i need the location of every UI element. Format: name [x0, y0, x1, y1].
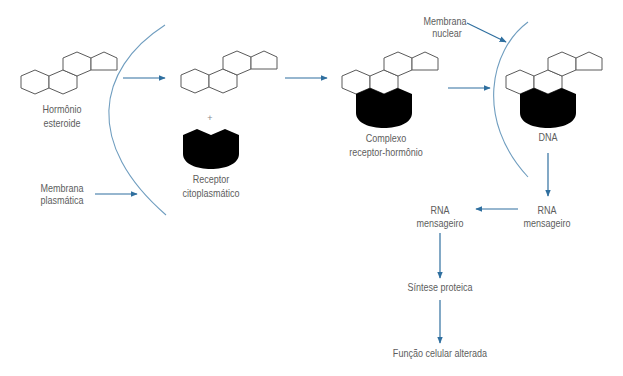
steroid-hormone-inside-structure [181, 51, 277, 93]
protein-synthesis-label: Síntese proteica [407, 281, 473, 293]
nuclear-membrane-label-line2: nuclear [432, 27, 462, 39]
mrna-nucleus-label-line1: RNA [537, 204, 556, 216]
hormone-label-line1: Hormônio [42, 103, 82, 115]
receptor-label-line2: citoplasmático [182, 187, 240, 199]
plasma-membrane-label-line1: Membrana [40, 182, 84, 194]
steroid-hormone-structure [21, 52, 117, 94]
cell-function-label: Função celular alterada [393, 347, 488, 359]
hormone-label-line2: esteroide [43, 117, 80, 129]
mrna-cytoplasm-label-line1: RNA [430, 204, 449, 216]
steroid-hormone-diagram: Hormônio esteroide Membrana plasmática +… [0, 0, 623, 376]
complex-label-line2: receptor-hormônio [349, 146, 423, 158]
mrna-cytoplasm-label-line2: mensageiro [416, 217, 464, 229]
plasma-membrane [109, 25, 166, 215]
plasma-membrane-label-line2: plasmática [40, 194, 84, 206]
dna-bound-complex-structure [506, 52, 602, 128]
mrna-nucleus-label-line2: mensageiro [523, 217, 571, 229]
cytoplasmic-receptor-shape [183, 129, 239, 169]
plus-sign: + [207, 113, 212, 123]
dna-label: DNA [538, 131, 557, 143]
receptor-hormone-complex-structure [342, 52, 438, 128]
complex-label-line1: Complexo [366, 132, 407, 144]
nuclear-membrane-pointer-arrow [467, 23, 506, 42]
receptor-label-line1: Receptor [193, 173, 230, 185]
nuclear-membrane-label-line1: Membrana [423, 15, 467, 27]
